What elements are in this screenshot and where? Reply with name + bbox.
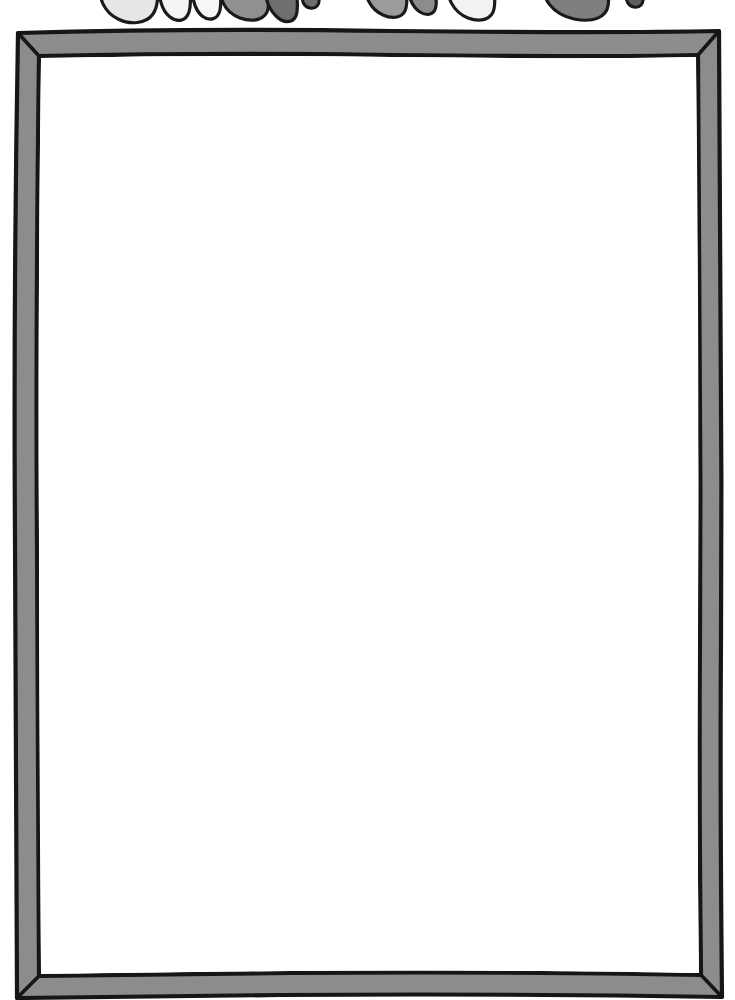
- body-text: [38, 58, 39, 59]
- title-banner: [0, 0, 735, 26]
- writing-area[interactable]: [38, 58, 693, 958]
- worksheet-page: [0, 0, 735, 1000]
- page-title: [0, 0, 1, 1]
